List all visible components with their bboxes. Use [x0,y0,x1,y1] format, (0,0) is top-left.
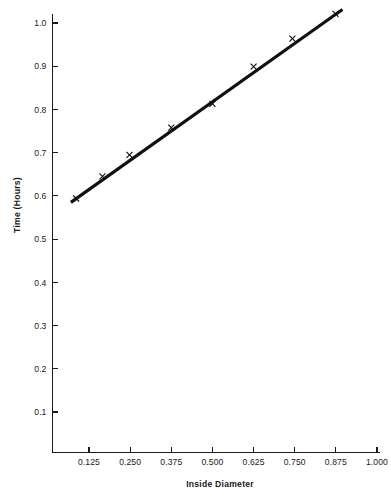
data-point-marker [126,152,132,158]
y-tick-label: 0.6 [34,191,46,201]
trend-line [71,10,343,203]
x-tick-label: 0.125 [78,457,100,467]
data-point-marker [289,36,295,42]
x-tick-label: 1.000 [366,457,388,467]
y-tick-label: 0.1 [34,407,46,417]
x-axis-title: Inside Diameter [186,479,254,489]
x-tick-label: 0.875 [325,457,347,467]
y-tick-label: 0.5 [34,234,46,244]
y-tick-label: 0.8 [34,105,46,115]
y-axis-ticks: 0.10.20.30.40.50.60.70.80.91.0 [34,18,58,417]
data-series-group [71,10,343,203]
y-tick-label: 0.4 [34,278,46,288]
y-axis-title: Time (Hours) [12,177,22,233]
x-tick-label: 0.250 [119,457,141,467]
x-tick-label: 0.375 [160,457,182,467]
chart-figure: 0.10.20.30.40.50.60.70.80.91.0 0.1250.25… [0,0,391,495]
y-tick-label: 0.9 [34,61,46,71]
y-tick-label: 1.0 [34,18,46,28]
y-tick-label: 0.2 [34,364,46,374]
x-tick-label: 0.500 [201,457,223,467]
x-tick-label: 0.750 [284,457,306,467]
y-tick-label: 0.3 [34,321,46,331]
y-tick-label: 0.7 [34,148,46,158]
chart-plot-area: 0.10.20.30.40.50.60.70.80.91.0 0.1250.25… [0,0,391,495]
x-tick-label: 0.625 [243,457,265,467]
x-axis-ticks: 0.1250.2500.3750.5000.6250.7500.8751.000 [78,447,388,467]
data-point-marker [251,64,257,70]
